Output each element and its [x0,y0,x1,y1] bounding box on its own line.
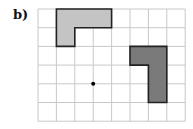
grid-diagram [0,0,193,129]
center-point [91,82,95,86]
dark-l-shape [130,46,167,102]
light-l-shape [56,9,111,46]
